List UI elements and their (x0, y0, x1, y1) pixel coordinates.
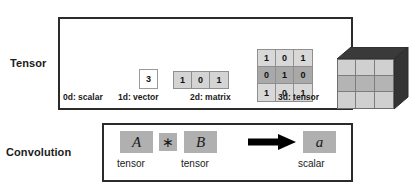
cube-cell (356, 76, 374, 92)
cube-front-face (337, 59, 394, 109)
cube-row (338, 60, 393, 76)
caption-2d-matrix: 2d: matrix (190, 92, 231, 102)
matrix-cell: 1 (258, 50, 276, 67)
result-scalar-tile: a (303, 131, 336, 153)
cube-cell (375, 92, 393, 108)
matrix-cell: 1 (294, 50, 312, 67)
convolution-row-label: Convolution (6, 146, 71, 158)
matrix-cell: 0 (258, 67, 276, 84)
vector-grid: 1 0 1 (173, 71, 229, 89)
cube-row (338, 92, 393, 108)
caption-operand-b: tensor (181, 158, 209, 169)
convolution-operator-icon: ∗ (159, 133, 177, 151)
cube-icon (337, 47, 409, 109)
arrow-right-icon (248, 134, 296, 150)
scalar-cell: 3 (139, 69, 158, 89)
operand-b-tile: B (184, 131, 217, 153)
matrix-cell: 0 (294, 67, 312, 84)
tensor-row-label: Tensor (10, 57, 46, 69)
cube-cell (356, 92, 374, 108)
caption-operand-a: tensor (117, 158, 145, 169)
cube-cell (338, 60, 356, 76)
matrix-row: 1 0 1 (258, 50, 312, 67)
vector-cell: 1 (210, 72, 228, 88)
caption-result: scalar (298, 158, 325, 169)
cube-cell (375, 76, 393, 92)
caption-3d-tensor: 3d: tensor (278, 92, 319, 102)
cube-cell (338, 76, 356, 92)
vector-cell: 1 (174, 72, 192, 88)
matrix-row: 0 1 0 (258, 67, 312, 84)
vector-cell: 0 (192, 72, 210, 88)
caption-1d-vector: 1d: vector (118, 92, 159, 102)
cube-row (338, 76, 393, 92)
operand-a-tile: A (120, 131, 153, 153)
caption-0d-scalar: 0d: scalar (63, 92, 103, 102)
matrix-cell: 1 (276, 67, 294, 84)
cube-cell (375, 60, 393, 76)
matrix-cell: 0 (276, 50, 294, 67)
matrix-cell: 1 (258, 84, 276, 101)
cube-cell (356, 60, 374, 76)
cube-cell (338, 92, 356, 108)
